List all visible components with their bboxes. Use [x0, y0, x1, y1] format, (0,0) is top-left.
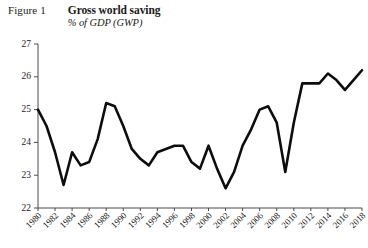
x-tick-label: 1986 — [75, 210, 95, 230]
x-tick-label: 1998 — [177, 210, 197, 230]
y-tick-label: 23 — [22, 170, 32, 180]
y-tick-label: 24 — [22, 137, 32, 147]
x-tick-label: 1990 — [109, 210, 129, 230]
x-tick-label: 1982 — [41, 210, 61, 230]
y-tick-group: 222324252627 — [22, 39, 39, 213]
chart-svg: 222324252627 198019821984198619881990199… — [0, 0, 368, 248]
x-tick-label: 2006 — [245, 210, 265, 230]
x-tick-label: 2000 — [194, 210, 214, 230]
figure-root: Figure 1 Gross world saving % of GDP (GW… — [0, 0, 368, 248]
x-tick-label: 1992 — [126, 210, 146, 230]
y-tick-label: 27 — [22, 39, 32, 49]
x-tick-label: 2004 — [228, 210, 248, 230]
x-tick-label: 2014 — [314, 210, 334, 230]
x-tick-label: 2010 — [279, 210, 299, 230]
x-tick-label: 1980 — [24, 210, 44, 230]
x-tick-label: 2018 — [348, 210, 368, 230]
plot-area: 222324252627 198019821984198619881990199… — [0, 0, 368, 248]
x-tick-label: 2016 — [331, 210, 351, 230]
x-tick-label: 2002 — [211, 210, 231, 230]
data-series-group — [38, 70, 362, 188]
x-axis-group: 1980198219841986198819901992199419961998… — [24, 208, 368, 230]
x-tick-label: 1984 — [58, 210, 78, 230]
y-tick-label: 22 — [22, 203, 32, 213]
x-tick-label: 2012 — [296, 210, 316, 230]
x-tick-label: 1988 — [92, 210, 112, 230]
x-tick-label: 2008 — [262, 210, 282, 230]
y-tick-label: 26 — [22, 71, 32, 81]
x-tick-label: 1996 — [160, 210, 180, 230]
x-tick-label: 1994 — [143, 210, 163, 230]
x-tick-group: 1980198219841986198819901992199419961998… — [24, 208, 368, 230]
gross-world-saving-line — [38, 70, 362, 188]
y-tick-label: 25 — [22, 104, 32, 114]
y-axis-group: 222324252627 — [22, 39, 39, 213]
